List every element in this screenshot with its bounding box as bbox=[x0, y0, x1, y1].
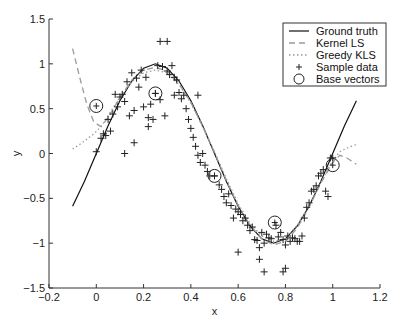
sample-point bbox=[168, 62, 175, 69]
sample-point bbox=[131, 139, 138, 146]
sample-point bbox=[301, 215, 308, 222]
x-tick-label: 1 bbox=[330, 291, 336, 303]
x-tick-label: 0.8 bbox=[278, 291, 293, 303]
sample-point bbox=[261, 268, 268, 275]
sample-point bbox=[192, 143, 199, 150]
ground-truth-line bbox=[73, 64, 357, 243]
legend: Ground truthKernel LSGreedy KLSSample da… bbox=[283, 23, 386, 86]
y-tick-label: 0 bbox=[39, 148, 45, 160]
sample-point bbox=[154, 62, 161, 69]
sample-point bbox=[131, 107, 138, 114]
sample-point bbox=[121, 150, 128, 157]
base-vector bbox=[90, 99, 103, 112]
sample-point bbox=[145, 123, 152, 130]
sample-point bbox=[190, 134, 197, 141]
sample-point bbox=[194, 152, 201, 159]
sample-point bbox=[147, 101, 154, 108]
x-tick-label: 0.2 bbox=[136, 291, 151, 303]
y-tick-label: 1.5 bbox=[30, 13, 45, 25]
sample-point bbox=[235, 249, 242, 256]
y-tick-label: −1 bbox=[32, 237, 45, 249]
sample-point bbox=[145, 114, 152, 121]
sample-point bbox=[121, 98, 128, 105]
sample-point bbox=[107, 128, 114, 135]
sample-point bbox=[187, 125, 194, 132]
y-tick-label: −0.5 bbox=[23, 192, 45, 204]
legend-label: Kernel LS bbox=[316, 37, 364, 49]
y-tick-label: 0.5 bbox=[30, 103, 45, 115]
sample-point bbox=[185, 116, 192, 123]
x-tick-label: 0.6 bbox=[230, 291, 245, 303]
sample-point bbox=[161, 112, 168, 119]
sample-point bbox=[258, 229, 265, 236]
sample-point bbox=[194, 92, 201, 99]
chart: −0.200.20.40.60.811.2−1.5−1−0.500.511.5 … bbox=[0, 0, 402, 327]
sample-point bbox=[135, 84, 142, 91]
legend-label: Ground truth bbox=[316, 25, 378, 37]
sample-point bbox=[157, 38, 164, 45]
y-tick-label: −1.5 bbox=[23, 282, 45, 294]
sample-point bbox=[164, 38, 171, 45]
sample-point bbox=[230, 215, 237, 222]
sample-point bbox=[128, 69, 135, 76]
sample-point bbox=[183, 105, 190, 112]
sample-point bbox=[126, 112, 133, 119]
y-axis-label: y bbox=[10, 150, 22, 156]
base-vector bbox=[149, 87, 162, 100]
x-tick-label: 0.4 bbox=[183, 291, 198, 303]
base-vector bbox=[268, 216, 281, 229]
sample-point bbox=[199, 150, 206, 157]
sample-point bbox=[142, 74, 149, 81]
sample-point bbox=[114, 103, 121, 110]
base-vector-points bbox=[90, 87, 339, 229]
legend-label: Greedy KLS bbox=[316, 49, 376, 61]
y-tick-label: 1 bbox=[39, 58, 45, 70]
sample-point bbox=[256, 256, 263, 263]
legend-label: Sample data bbox=[316, 61, 379, 73]
x-axis-label: x bbox=[212, 305, 218, 317]
legend-label: Base vectors bbox=[316, 73, 380, 85]
x-tick-label: 1.2 bbox=[372, 291, 387, 303]
sample-point bbox=[150, 116, 157, 123]
sample-point bbox=[256, 244, 263, 251]
x-tick-label: 0 bbox=[93, 291, 99, 303]
sample-point bbox=[140, 103, 147, 110]
